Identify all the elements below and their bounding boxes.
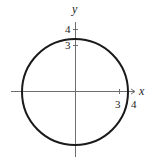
x-tick-label-3: 3 — [115, 98, 121, 110]
y-tick-label-3: 3 — [65, 39, 71, 51]
y-axis-label: y — [71, 2, 78, 16]
x-tick-label-4: 4 — [131, 98, 137, 110]
x-axis-label: x — [138, 84, 145, 98]
y-tick-label-4: 4 — [65, 23, 71, 35]
circle-graph: y x 4 3 3 4 — [0, 0, 152, 164]
